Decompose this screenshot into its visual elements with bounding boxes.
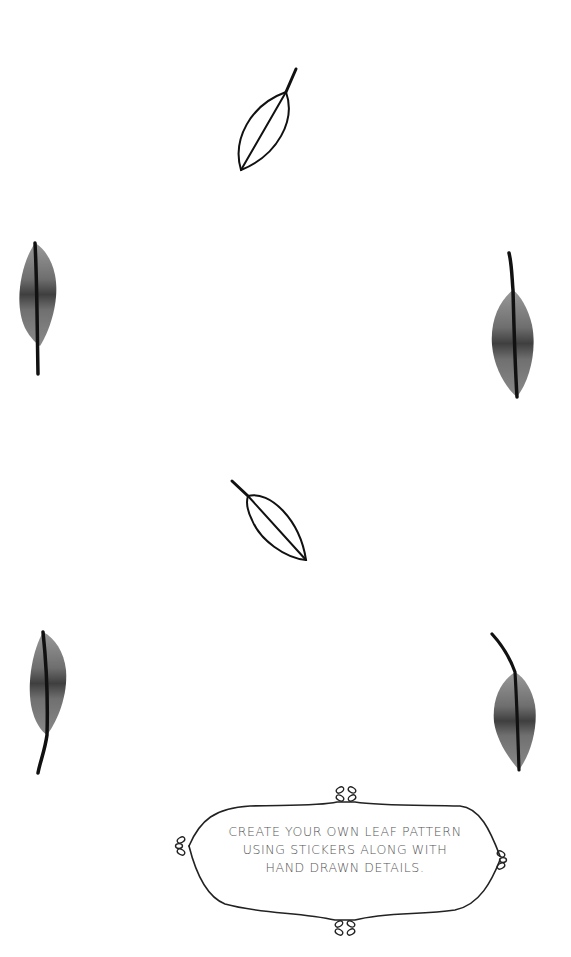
watercolor-leaf-right-lower <box>492 634 536 770</box>
outline-leaf-top <box>239 69 296 170</box>
flourish-left <box>176 836 186 857</box>
caption-line-3: HAND DRAWN DETAILS. <box>190 859 500 877</box>
flourish-top <box>335 786 357 803</box>
leaf-pattern-canvas <box>0 0 571 957</box>
watercolor-leaf-left-lower <box>30 632 67 773</box>
flourish-bottom <box>334 920 356 937</box>
watercolor-leaf-left-upper <box>19 243 56 374</box>
caption-line-2: USING STICKERS ALONG WITH <box>190 841 500 859</box>
outline-leaf-middle <box>232 481 306 560</box>
watercolor-leaf-right-upper <box>492 253 534 397</box>
caption-line-1: CREATE YOUR OWN LEAF PATTERN <box>190 823 500 841</box>
caption-text: CREATE YOUR OWN LEAF PATTERN USING STICK… <box>190 823 500 877</box>
